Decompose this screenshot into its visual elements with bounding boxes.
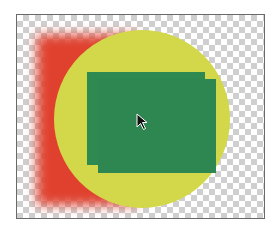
green-rectangle-shape-offset[interactable]: [98, 79, 216, 173]
canvas-frame[interactable]: [16, 14, 265, 219]
arrow-pointer-icon: [136, 113, 152, 131]
